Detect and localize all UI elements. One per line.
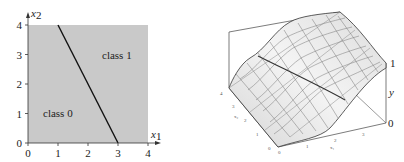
svg-text:1: 1: [306, 144, 309, 149]
z-tick-label: 1: [390, 57, 396, 69]
svg-text:x₁: x₁: [330, 145, 335, 150]
y-ticks: 0 1 2 3 4: [17, 19, 29, 149]
svg-text:2: 2: [334, 138, 337, 143]
svg-text:4: 4: [220, 91, 223, 96]
x-axis-label: x1: [150, 128, 161, 142]
y-axis-label: x2: [30, 7, 41, 21]
svg-text:3: 3: [232, 104, 235, 109]
x-tick-label: 3: [115, 147, 121, 159]
z-axis-label: y: [388, 86, 394, 98]
y-tick-label: 1: [17, 108, 23, 120]
y-tick-label: 2: [17, 78, 23, 90]
y-tick-label: 0: [17, 137, 23, 149]
y-tick-label: 4: [17, 19, 23, 31]
svg-text:1: 1: [256, 132, 259, 137]
x-ticks: 0 1 2 3 4: [25, 143, 151, 159]
svg-text:x₂: x₂: [234, 114, 239, 119]
x-tick-label: 4: [145, 147, 151, 159]
decision-region-plot: 0 1 2 3 4 0 1 2 3 4 x1 x2 class 0 class …: [17, 7, 162, 159]
z-tick-label: 0: [388, 117, 394, 129]
class-0-label: class 0: [43, 107, 73, 119]
svg-text:3: 3: [362, 132, 365, 137]
svg-text:2: 2: [244, 118, 247, 123]
x-tick-label: 2: [85, 147, 91, 159]
sigmoid-surface-plot: 1 y 0 0 1 2 3 x₁ 0 1 2 3 4 x₂: [220, 12, 396, 155]
x-tick-label: 0: [25, 147, 31, 159]
class-1-label: class 1: [102, 49, 132, 61]
x-tick-label: 1: [55, 147, 61, 159]
figure: 0 1 2 3 4 0 1 2 3 4 x1 x2 class 0 class …: [0, 0, 404, 162]
y-axis-arrow-icon: [26, 12, 30, 18]
y-tick-label: 3: [17, 49, 23, 61]
svg-text:0: 0: [278, 150, 281, 155]
svg-text:0: 0: [268, 146, 271, 151]
